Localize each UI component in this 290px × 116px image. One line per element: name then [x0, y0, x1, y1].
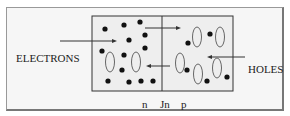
- junction-label: Jn: [160, 98, 170, 110]
- n-region-label: n: [142, 98, 148, 110]
- holes-label: HOLES: [248, 63, 283, 75]
- electrons-label: ELECTRONS: [16, 52, 80, 64]
- p-region-label: p: [181, 98, 187, 110]
